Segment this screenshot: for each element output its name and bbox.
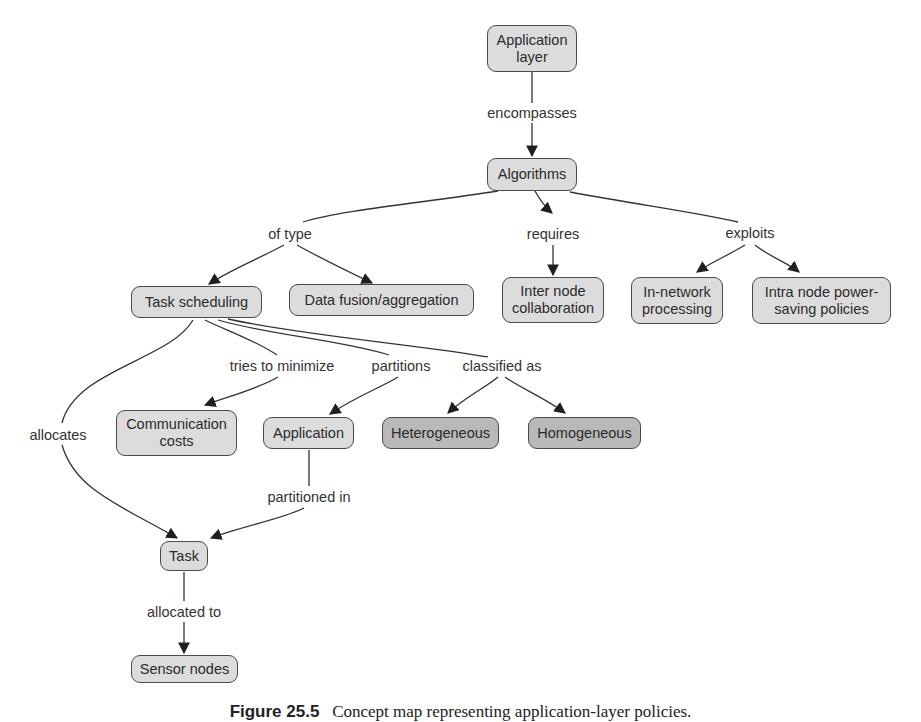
node-heterogeneous: Heterogeneous bbox=[382, 417, 499, 449]
link-label-allocated-to: allocated to bbox=[145, 604, 223, 621]
link-label-classified-as: classified as bbox=[461, 358, 544, 375]
node-label: Application bbox=[273, 425, 344, 442]
node-label: Task scheduling bbox=[145, 294, 248, 311]
node-label: Application layer bbox=[497, 32, 568, 66]
node-label: Communication costs bbox=[126, 416, 227, 450]
figure-number: Figure 25.5 bbox=[230, 702, 320, 721]
link-label-of-type: of type bbox=[266, 226, 314, 243]
node-application-layer: Application layer bbox=[487, 25, 577, 72]
node-homogeneous: Homogeneous bbox=[528, 417, 641, 449]
node-label: Task bbox=[169, 548, 199, 565]
node-label: Algorithms bbox=[498, 166, 567, 183]
link-label-exploits: exploits bbox=[723, 225, 776, 242]
link-label-encompasses: encompasses bbox=[485, 105, 578, 122]
node-label: Data fusion/aggregation bbox=[305, 292, 459, 309]
node-label: Inter node collaboration bbox=[512, 283, 594, 317]
node-application: Application bbox=[263, 417, 354, 449]
node-label: Heterogeneous bbox=[391, 425, 490, 442]
node-data-fusion: Data fusion/aggregation bbox=[289, 284, 474, 316]
node-communication-costs: Communication costs bbox=[116, 410, 237, 456]
node-algorithms: Algorithms bbox=[487, 158, 577, 191]
node-task: Task bbox=[160, 541, 208, 571]
link-label-allocates: allocates bbox=[27, 427, 88, 444]
node-label: In-network processing bbox=[642, 284, 712, 318]
link-label-partitioned-in: partitioned in bbox=[265, 489, 352, 506]
node-intra-node-power-saving: Intra node power- saving policies bbox=[752, 277, 891, 324]
link-label-partitions: partitions bbox=[370, 358, 433, 375]
node-in-network-processing: In-network processing bbox=[631, 277, 723, 324]
node-label: Intra node power- saving policies bbox=[765, 284, 879, 318]
node-label: Homogeneous bbox=[537, 425, 631, 442]
node-label: Sensor nodes bbox=[140, 661, 229, 678]
figure-caption-text: Concept map representing application-lay… bbox=[332, 702, 691, 721]
figure-caption: Figure 25.5 Concept map representing app… bbox=[0, 702, 921, 722]
node-sensor-nodes: Sensor nodes bbox=[131, 655, 238, 683]
node-inter-node-collaboration: Inter node collaboration bbox=[502, 277, 604, 323]
node-task-scheduling: Task scheduling bbox=[131, 286, 262, 318]
link-label-tries-to-minimize: tries to minimize bbox=[228, 358, 337, 375]
link-label-requires: requires bbox=[525, 226, 581, 243]
